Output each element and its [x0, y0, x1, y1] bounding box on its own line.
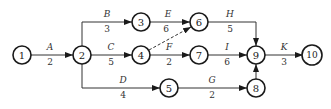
- node-5: 5: [160, 79, 178, 97]
- svg-text:10: 10: [306, 50, 318, 60]
- svg-text:5: 5: [166, 83, 172, 94]
- activity-G-name: G: [208, 75, 215, 85]
- activity-I-duration: 6: [224, 57, 230, 67]
- activity-B-name: B: [103, 9, 111, 19]
- activity-H-duration: 5: [227, 24, 233, 34]
- activity-K-duration: 3: [281, 57, 287, 67]
- node-7: 7: [190, 46, 208, 64]
- activity-I-name: I: [224, 42, 229, 52]
- node-9: 9: [247, 46, 265, 64]
- activity-E-name: E: [164, 9, 172, 19]
- activity-E-duration: 6: [163, 24, 169, 34]
- node-2: 2: [73, 46, 91, 64]
- activity-B-duration: 3: [104, 24, 110, 34]
- activity-C-name: C: [108, 42, 115, 52]
- activity-F-duration: 2: [166, 57, 172, 67]
- svg-text:3: 3: [138, 17, 144, 28]
- activity-G-duration: 2: [209, 90, 215, 100]
- node-6: 6: [190, 13, 208, 31]
- node-1: 1: [13, 46, 31, 64]
- svg-text:9: 9: [253, 50, 259, 61]
- activity-K-name: K: [280, 42, 289, 52]
- activity-A-duration: 2: [47, 57, 53, 67]
- svg-text:8: 8: [253, 83, 259, 94]
- node-10: 10: [302, 45, 322, 65]
- network-diagram: A 2 B 3 C 5 D 4 E 6 F 2 G 2 H 5 I 6 K 3 …: [0, 0, 331, 109]
- svg-text:6: 6: [196, 17, 202, 28]
- activity-H-name: H: [225, 9, 234, 19]
- svg-text:7: 7: [196, 50, 202, 61]
- svg-text:4: 4: [138, 50, 144, 61]
- activity-D-name: D: [118, 75, 126, 85]
- activity-F-name: F: [165, 42, 173, 52]
- activity-A-name: A: [46, 42, 54, 52]
- node-3: 3: [132, 13, 150, 31]
- activity-D-duration: 4: [120, 90, 126, 100]
- node-8: 8: [247, 79, 265, 97]
- svg-text:1: 1: [19, 50, 25, 61]
- activity-C-duration: 5: [108, 57, 114, 67]
- node-4: 4: [132, 46, 150, 64]
- svg-text:2: 2: [79, 50, 85, 61]
